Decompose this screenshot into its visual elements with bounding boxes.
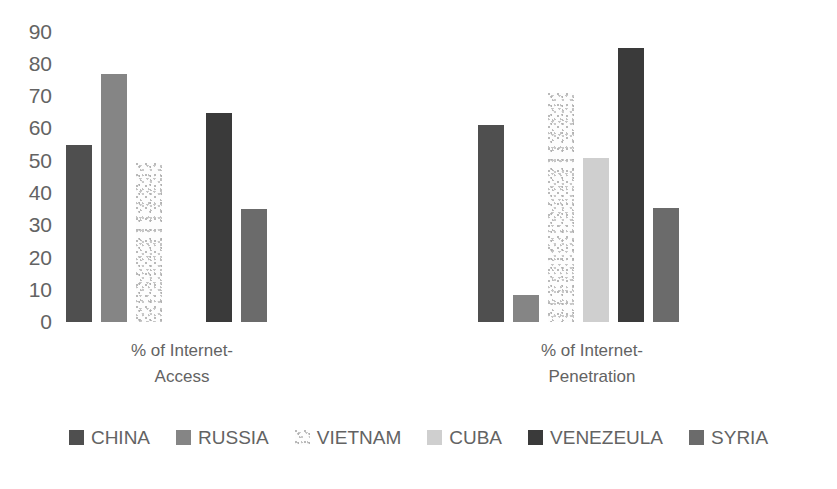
y-axis-tick: 80 xyxy=(0,53,52,74)
legend-label-vietnam: VIETNAM xyxy=(317,428,401,447)
bar-group-internet-penetration xyxy=(478,32,678,322)
y-axis-tick: 90 xyxy=(0,21,52,42)
group-label-internet-access: % of Internet- Access xyxy=(52,338,312,390)
y-axis-tick: 60 xyxy=(0,117,52,138)
bar-vietnam-access[interactable] xyxy=(136,163,162,323)
legend-label-russia: RUSSIA xyxy=(198,428,269,447)
bar-russia-penetration[interactable] xyxy=(513,295,539,322)
y-axis-tick: 0 xyxy=(0,311,52,332)
bar-venezuela-access[interactable] xyxy=(206,113,232,322)
bar-russia-access[interactable] xyxy=(101,74,127,322)
russia-swatch-icon xyxy=(176,430,191,445)
legend-item-cuba[interactable]: CUBA xyxy=(427,428,502,447)
bar-vietnam-penetration[interactable] xyxy=(548,93,574,322)
y-axis: 90 80 70 60 50 40 30 20 10 0 xyxy=(0,32,52,322)
y-axis-tick: 10 xyxy=(0,279,52,300)
group-label-internet-penetration: % of Internet- Penetration xyxy=(462,338,722,390)
legend-item-china[interactable]: CHINA xyxy=(69,428,150,447)
y-axis-tick: 70 xyxy=(0,85,52,106)
bar-group-internet-access xyxy=(66,32,266,322)
legend-item-venezuela[interactable]: VENEZEULA xyxy=(528,428,663,447)
cuba-swatch-icon xyxy=(427,430,442,445)
bars-container xyxy=(66,32,266,322)
y-axis-tick: 20 xyxy=(0,247,52,268)
syria-swatch-icon xyxy=(689,430,704,445)
legend-label-china: CHINA xyxy=(91,428,150,447)
legend-item-vietnam[interactable]: VIETNAM xyxy=(295,428,401,447)
bar-chart: 90 80 70 60 50 40 30 20 10 0 xyxy=(0,0,837,489)
legend-label-cuba: CUBA xyxy=(449,428,502,447)
chart-legend: CHINA RUSSIA VIETNAM CUBA VENEZEULA SYRI… xyxy=(0,428,837,447)
bar-cuba-penetration[interactable] xyxy=(583,158,609,322)
bar-china-access[interactable] xyxy=(66,145,92,322)
group-label-line1: % of Internet- xyxy=(462,338,722,364)
legend-item-russia[interactable]: RUSSIA xyxy=(176,428,269,447)
legend-item-syria[interactable]: SYRIA xyxy=(689,428,768,447)
legend-label-syria: SYRIA xyxy=(711,428,768,447)
vietnam-swatch-icon xyxy=(295,430,310,445)
bar-venezuela-penetration[interactable] xyxy=(618,48,644,322)
y-axis-tick: 50 xyxy=(0,150,52,171)
bar-china-penetration[interactable] xyxy=(478,125,504,322)
venezuela-swatch-icon xyxy=(528,430,543,445)
group-label-line1: % of Internet- xyxy=(52,338,312,364)
bar-syria-penetration[interactable] xyxy=(653,208,679,322)
y-axis-tick: 40 xyxy=(0,182,52,203)
y-axis-tick: 30 xyxy=(0,214,52,235)
bar-syria-access[interactable] xyxy=(241,209,267,322)
group-label-line2: Penetration xyxy=(462,364,722,390)
bars-container xyxy=(478,32,678,322)
china-swatch-icon xyxy=(69,430,84,445)
legend-label-venezuela: VENEZEULA xyxy=(550,428,663,447)
plot-area xyxy=(60,32,812,322)
group-label-line2: Access xyxy=(52,364,312,390)
